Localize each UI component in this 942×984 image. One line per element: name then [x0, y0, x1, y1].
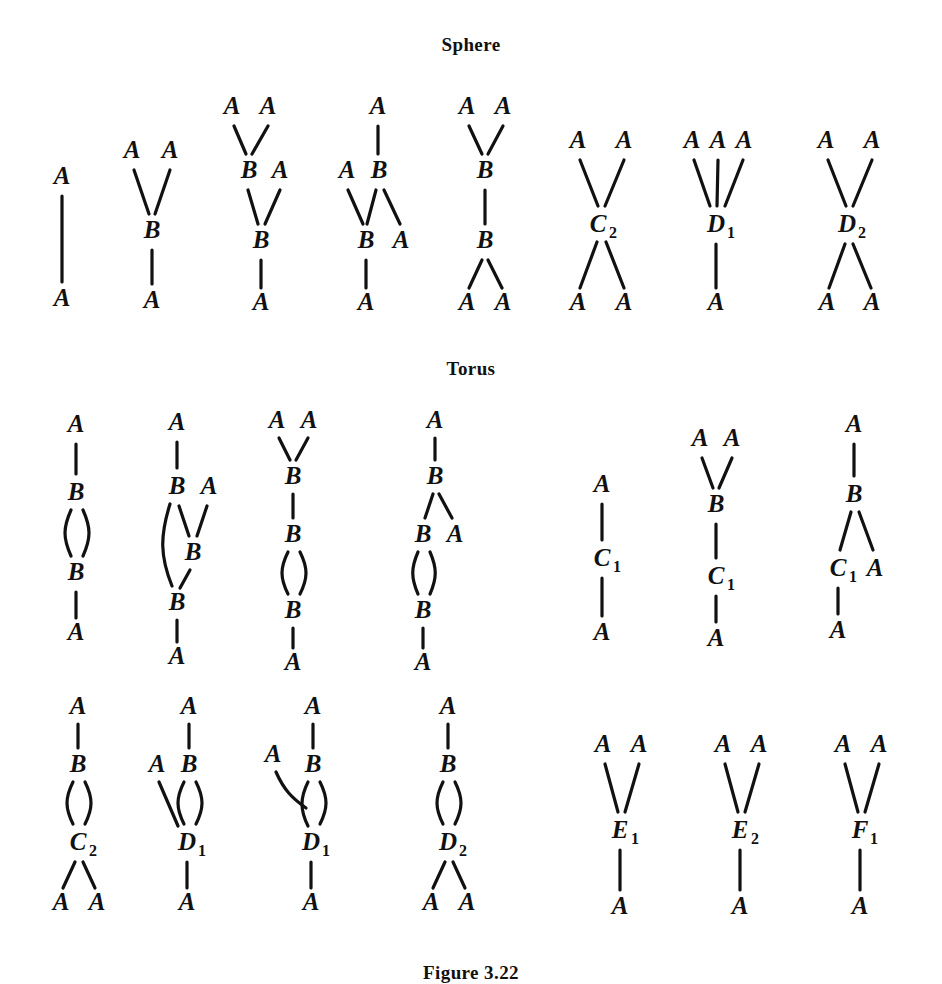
node-label-a: A — [457, 888, 476, 915]
edge-diagonal — [725, 160, 743, 206]
svg-text:1: 1 — [870, 830, 878, 847]
node-label-b: B — [67, 478, 85, 505]
node-label-a: A — [147, 750, 166, 777]
node-label-a: A — [368, 92, 387, 119]
node-label-a: A — [267, 406, 286, 433]
node-label-a: A — [708, 126, 727, 153]
node-label-a: A — [122, 136, 141, 163]
diagram-torus-12: A A E 1 A — [586, 730, 676, 926]
node-label-a: A — [167, 642, 186, 669]
node-label-b: B — [414, 596, 432, 623]
node-label-b: B — [845, 480, 863, 507]
node-label-b: B — [284, 520, 302, 547]
edge-diagonal — [469, 126, 482, 154]
node-label-b: B — [476, 156, 494, 183]
edge-diagonal — [605, 764, 618, 812]
node-label-c1: C 1 — [708, 562, 735, 593]
node-label-a: A — [337, 156, 356, 183]
diagram-torus-11: A B D 2 A A — [420, 692, 510, 924]
edge-diagonal — [159, 782, 178, 826]
edge-diagonal — [605, 160, 624, 206]
node-label-a: A — [610, 892, 629, 919]
node-label-a: A — [690, 424, 709, 451]
svg-text:C: C — [590, 210, 607, 237]
node-label-a: A — [299, 406, 318, 433]
svg-text:D: D — [301, 828, 320, 855]
node-label-a: A — [413, 648, 432, 675]
node-label-a: A — [66, 410, 85, 437]
edge-diagonal — [745, 764, 759, 812]
node-label-a: A — [356, 288, 375, 315]
node-label-b: B — [252, 226, 270, 253]
node-label-a: A — [222, 92, 241, 119]
node-label-a: A — [592, 470, 611, 497]
node-label-b: B — [284, 462, 302, 489]
edge-arc-left — [65, 510, 71, 556]
node-label-a: A — [457, 92, 476, 119]
svg-text:C: C — [594, 544, 611, 571]
node-label-a: A — [614, 126, 633, 153]
edge-diagonal — [265, 190, 280, 224]
edge-diagonal — [425, 494, 433, 518]
edge-diagonal — [367, 190, 376, 224]
edge-diagonal — [828, 160, 846, 206]
edge-diagonal — [180, 570, 190, 588]
diagram-torus-4: A B B A B A — [400, 406, 500, 656]
node-label-a: A — [722, 424, 741, 451]
edge-arc-right — [83, 510, 89, 556]
edge-arc-right — [320, 782, 326, 824]
edge-diagonal — [488, 126, 503, 154]
diagram-torus-14: A A F 1 A — [826, 730, 916, 926]
node-label-a: A — [862, 288, 881, 315]
svg-text:C: C — [830, 554, 847, 581]
node-label-b: B — [67, 558, 85, 585]
svg-text:D: D — [706, 210, 725, 237]
node-label-a: A — [593, 730, 612, 757]
edge-diagonal — [840, 512, 851, 550]
diagram-torus-13: A A E 2 A — [706, 730, 796, 926]
node-label-a: A — [303, 692, 322, 719]
node-label-a: A — [493, 92, 512, 119]
edge-diagonal — [853, 160, 872, 206]
svg-text:2: 2 — [89, 842, 97, 859]
node-label-a: A — [682, 126, 701, 153]
edge-diagonal — [829, 244, 845, 288]
node-label-a: A — [160, 136, 179, 163]
node-label-a: A — [865, 554, 884, 581]
node-label-d2: D 2 — [438, 828, 467, 859]
edge-diagonal — [197, 506, 207, 536]
node-label-d1: D 1 — [177, 828, 206, 859]
node-label-a: A — [251, 288, 270, 315]
node-label-a: A — [568, 126, 587, 153]
svg-text:1: 1 — [727, 576, 735, 593]
node-label-a: A — [869, 730, 888, 757]
node-label-b: B — [426, 462, 444, 489]
node-label-a: A — [833, 730, 852, 757]
node-label-a: A — [816, 126, 835, 153]
node-label-c2: C 2 — [70, 828, 97, 859]
edge-arc-long-left — [163, 504, 172, 586]
diagram-sphere-1: A A — [42, 160, 102, 310]
node-label-b: B — [476, 226, 494, 253]
node-label-b: B — [168, 472, 186, 499]
edge-diagonal — [845, 764, 858, 812]
node-label-a: A — [283, 648, 302, 675]
edge-diagonal — [179, 506, 189, 536]
node-label-b: B — [304, 750, 322, 777]
diagram-torus-6: A A B C 1 A — [682, 424, 772, 652]
edge-diagonal — [725, 764, 738, 812]
diagram-torus-2: A B A B B A — [150, 408, 250, 644]
edge-arc-right — [300, 552, 306, 594]
node-label-a: A — [445, 520, 464, 547]
edge-diagonal — [865, 764, 879, 812]
node-label-a: A — [68, 692, 87, 719]
node-label-a: A — [862, 126, 881, 153]
svg-text:E: E — [731, 816, 749, 843]
svg-text:2: 2 — [609, 224, 617, 241]
node-label-a: A — [270, 156, 289, 183]
diagram-sphere-6: A A C 2 A A — [562, 126, 662, 312]
node-label-a: A — [438, 692, 457, 719]
svg-text:2: 2 — [459, 842, 467, 859]
svg-text:1: 1 — [849, 568, 857, 585]
diagram-sphere-4: A A B B A A — [330, 92, 430, 312]
